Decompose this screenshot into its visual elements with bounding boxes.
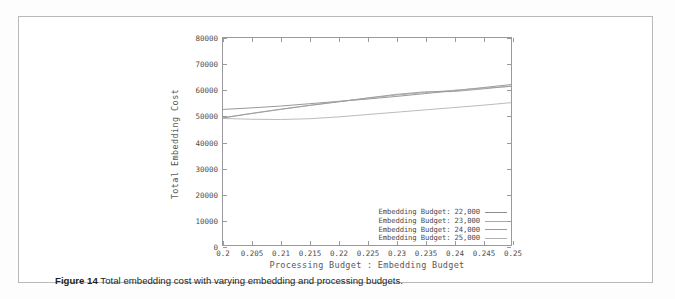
x-axis-tick-mark [426,38,427,42]
x-axis-tick-mark [339,241,340,245]
series-line [223,86,511,117]
y-axis-tick-mark [507,90,511,91]
y-axis-tick-label: 80000 [195,34,218,43]
y-axis-tick-mark [223,64,227,65]
x-axis-tick-label: 0.2 [216,249,230,258]
legend-line-sample [485,234,507,241]
x-axis-tick-mark [397,241,398,245]
legend-item: Embedding Budget: 24,000 [379,225,507,234]
x-axis-tick-label: 0.25 [504,249,522,258]
x-axis-tick-mark [455,241,456,245]
x-axis-tick-mark [310,241,311,245]
chart-container: Total Embedding Cost Embedding Budget: 2… [169,23,569,268]
y-axis-tick-mark [223,169,227,170]
y-axis-tick-label: 40000 [195,138,218,147]
x-axis-tick-mark [484,241,485,245]
plot-area: Embedding Budget: 22,000Embedding Budget… [222,37,512,246]
x-axis-tick-label: 0.22 [330,249,348,258]
y-axis-tick-label: 20000 [195,190,218,199]
x-axis-tick-mark [513,38,514,42]
y-axis-tick-mark [507,64,511,65]
x-axis-tick-mark [310,38,311,42]
figure-caption-label: Figure 14 [55,275,98,286]
x-axis-tick-label: 0.24 [446,249,464,258]
x-axis-tick-mark [281,38,282,42]
figure-caption-text: Total embedding cost with varying embedd… [100,275,403,286]
series-line [223,85,511,110]
x-axis-tick-label: 0.215 [299,249,322,258]
y-axis-tick-mark [507,38,511,39]
figure-page: Total Embedding Cost Embedding Budget: 2… [0,0,675,299]
x-axis-tick-mark [252,241,253,245]
y-axis-tick-label: 70000 [195,60,218,69]
y-axis-tick-mark [223,195,227,196]
y-axis-tick-mark [507,116,511,117]
y-axis-tick-label: 60000 [195,86,218,95]
legend-item: Embedding Budget: 23,000 [379,216,507,225]
y-axis-tick-label: 50000 [195,112,218,121]
legend-line-sample [485,217,507,224]
x-axis-tick-label: 0.235 [415,249,438,258]
y-axis-tick-mark [507,247,511,248]
x-axis-tick-label: 0.245 [473,249,496,258]
x-axis-tick-mark [223,241,224,245]
x-axis-tick-mark [223,38,224,42]
legend-line-sample [485,226,507,233]
x-axis-tick-mark [281,241,282,245]
y-axis-tick-mark [223,90,227,91]
legend-item-label: Embedding Budget: 25,000 [379,233,480,242]
series-line [223,86,511,118]
y-axis-tick-label: 30000 [195,164,218,173]
y-axis-tick-mark [223,116,227,117]
x-axis-tick-mark [484,38,485,42]
y-axis-title-text: Total Embedding Cost [170,89,180,199]
x-axis-tick-mark [368,38,369,42]
x-axis-tick-label: 0.225 [357,249,380,258]
chart-legend: Embedding Budget: 22,000Embedding Budget… [375,206,510,244]
y-axis-tick-mark [223,143,227,144]
x-axis-tick-mark [513,241,514,245]
x-axis-tick-mark [368,241,369,245]
x-axis-tick-mark [339,38,340,42]
y-axis-tick-mark [507,169,511,170]
x-axis-tick-label: 0.205 [241,249,264,258]
figure-caption: Figure 14 Total embedding cost with vary… [55,275,655,286]
y-axis-tick-label: 10000 [195,216,218,225]
y-axis-tick-mark [223,221,227,222]
x-axis-tick-mark [426,241,427,245]
y-axis-tick-mark [507,195,511,196]
y-axis-tick-mark [507,143,511,144]
x-axis-tick-label: 0.23 [388,249,406,258]
x-axis-title: Processing Budget : Embedding Budget [222,260,512,270]
y-axis-tick-mark [223,247,227,248]
figure-frame: Total Embedding Cost Embedding Budget: 2… [18,16,653,283]
y-axis-title: Total Embedding Cost [167,69,183,219]
legend-item: Embedding Budget: 22,000 [379,208,507,217]
x-axis-tick-mark [252,38,253,42]
x-axis-tick-mark [455,38,456,42]
legend-line-sample [485,208,507,215]
x-axis-tick-label: 0.21 [272,249,290,258]
x-axis-tick-mark [397,38,398,42]
y-axis-tick-mark [507,221,511,222]
